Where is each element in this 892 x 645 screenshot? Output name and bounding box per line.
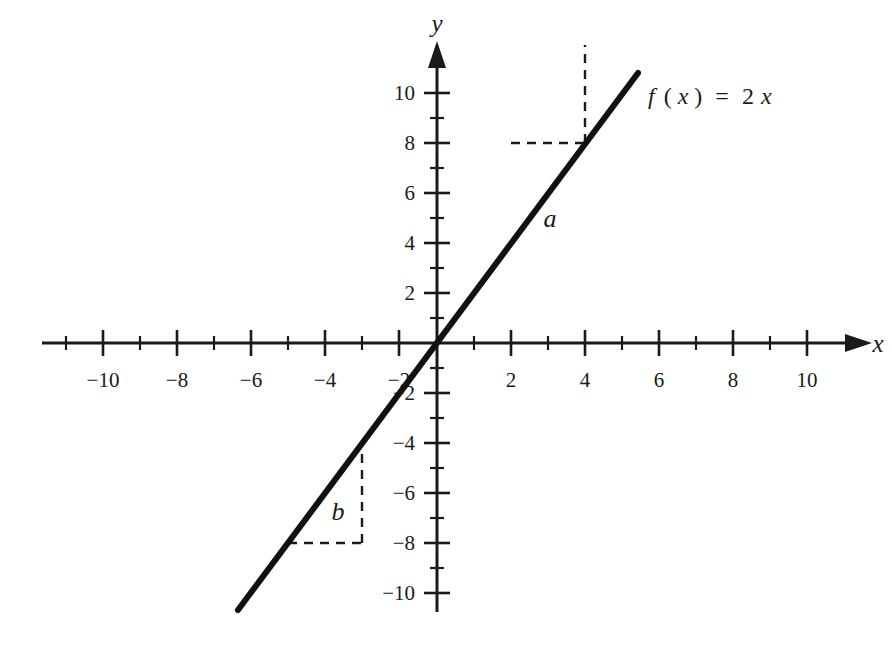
x-tick-label: 8 <box>728 368 739 392</box>
function-label-f: f <box>648 83 658 109</box>
x-axis-arrowhead <box>845 334 872 352</box>
x-tick-label: −4 <box>314 368 337 392</box>
y-tick-label: 4 <box>405 231 416 255</box>
y-tick-label: −6 <box>393 481 415 505</box>
x-tick-label: −10 <box>87 368 120 392</box>
y-tick-label: −4 <box>393 431 416 455</box>
x-tick-labels: −10 −8 −6 −4 −2 2 4 6 8 10 <box>87 368 818 392</box>
function-label-coefficient: 2 <box>742 83 754 109</box>
y-tick-label: −10 <box>382 581 415 605</box>
function-label-close-paren: ) <box>694 83 702 109</box>
x-axis-label: x <box>871 330 883 357</box>
y-tick-label: 6 <box>405 181 416 205</box>
function-label-open-paren: ( <box>664 83 672 109</box>
y-tick-label: 2 <box>405 281 416 305</box>
function-label-equals: = <box>715 83 729 109</box>
x-tick-label: 10 <box>797 368 818 392</box>
x-tick-label: 6 <box>654 368 665 392</box>
function-label-variable: x <box>677 83 689 109</box>
x-tick-label: 4 <box>580 368 591 392</box>
slope-label-b: b <box>332 497 345 526</box>
slope-label-a: a <box>544 204 557 233</box>
y-axis-arrowhead <box>428 41 446 68</box>
y-tick-label: 8 <box>405 131 416 155</box>
function-label-term-variable: x <box>760 83 772 109</box>
y-axis-label: y <box>428 10 443 37</box>
function-graph-figure: −10 −8 −6 −4 −2 2 4 6 8 10 10 8 6 4 2 −2… <box>0 0 892 645</box>
x-tick-label: −6 <box>240 368 262 392</box>
x-tick-label: 2 <box>506 368 517 392</box>
x-tick-label: −8 <box>166 368 188 392</box>
y-tick-label: −8 <box>393 531 415 555</box>
y-tick-label: 10 <box>394 81 415 105</box>
axes-group <box>42 41 872 612</box>
function-label: f ( x ) = 2 x <box>648 83 772 109</box>
coordinate-plane: −10 −8 −6 −4 −2 2 4 6 8 10 10 8 6 4 2 −2… <box>0 0 892 645</box>
slope-triangle-a: a <box>511 45 585 233</box>
